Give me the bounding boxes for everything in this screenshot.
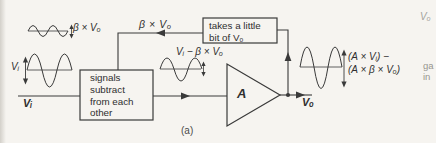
subtract-box-line: other xyxy=(90,107,134,119)
output-signal-label: Vₒ xyxy=(302,97,314,108)
edge-fragment-in: in xyxy=(423,72,430,82)
subtract-box-line: signals xyxy=(90,72,134,84)
amplifier-triangle xyxy=(227,64,280,126)
error-signal-line xyxy=(153,93,227,100)
edge-fragment-ga: ga xyxy=(423,61,434,71)
feedback-box-text: takes a little bit of Vₒ xyxy=(209,20,261,43)
feedback-path xyxy=(118,30,291,95)
error-amplitude-arrow xyxy=(201,62,205,77)
subtract-box-line: subtract xyxy=(90,84,134,96)
figure-feedback-amplifier: β × Vₒ β × Vₒ Vᵢ Vᵢ Vᵢ − β × Vₒ A Vₒ (A … xyxy=(0,0,436,143)
input-wave-label: Vᵢ xyxy=(11,62,19,72)
error-signal-label: Vᵢ − β × Vₒ xyxy=(176,47,223,57)
input-signal-label: Vᵢ xyxy=(23,98,32,109)
figure-caption: (a) xyxy=(181,126,193,136)
beta-wave-label: β × Vₒ xyxy=(73,23,101,33)
beta-waveform xyxy=(28,26,68,37)
input-waveform xyxy=(27,54,72,87)
feedback-line-label: β × Vₒ xyxy=(139,19,172,30)
input-amplitude-arrow xyxy=(23,57,28,85)
error-waveform xyxy=(160,58,202,81)
subtract-box-line: from each xyxy=(90,96,134,108)
output-expression-line1: (A × Vᵢ) − xyxy=(348,52,389,62)
feedback-box-line: bit of Vₒ xyxy=(209,32,261,44)
amplifier-label: A xyxy=(237,87,246,100)
output-amplitude-arrow xyxy=(341,50,346,88)
subtract-box-text: signals subtract from each other xyxy=(90,72,134,119)
feedback-box-line: takes a little xyxy=(209,20,261,32)
output-waveform xyxy=(300,47,342,89)
edge-fragment-vo: Vₒ xyxy=(420,12,431,22)
output-expression-line2: (A × β × Vₒ) xyxy=(348,65,400,75)
